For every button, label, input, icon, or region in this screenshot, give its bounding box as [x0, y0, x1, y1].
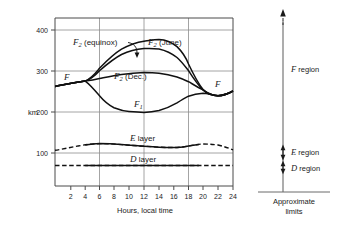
x-tick-6: 6 — [98, 193, 102, 200]
label-f-right: F — [214, 79, 221, 89]
side-label-f-region: F region — [290, 64, 319, 74]
x-tick-8: 8 — [112, 193, 116, 200]
y-tick-400: 400 — [36, 27, 48, 34]
x-tick-20: 20 — [199, 193, 207, 200]
label-f2-june: F2 (June) — [147, 37, 182, 48]
e-region-extent-arrow — [281, 145, 286, 161]
x-tick-12: 12 — [140, 193, 148, 200]
y-axis-unit-label: km — [28, 108, 38, 117]
figure-svg: 400 300 200 100 km 2 4 6 8 10 12 14 16 1… — [0, 0, 342, 232]
side-region-panel: F region E region D region Approximate l… — [258, 9, 330, 216]
region-up-arrow-icon — [280, 9, 286, 17]
label-f2-equinox: F2 (equinox) — [72, 37, 118, 48]
ionosphere-layer-height-figure: 400 300 200 100 km 2 4 6 8 10 12 14 16 1… — [0, 0, 342, 232]
x-axis-ticks — [71, 186, 233, 190]
x-axis-title: Hours, local time — [117, 206, 173, 215]
curve-e-layer-solid — [85, 144, 199, 148]
x-tick-24: 24 — [229, 193, 237, 200]
label-f1: F1 — [133, 99, 143, 110]
label-d-layer: D layer — [129, 154, 156, 164]
label-e-layer: E layer — [129, 133, 155, 143]
label-f2-dec: F2 (Dec.) — [113, 71, 147, 82]
x-tick-18: 18 — [185, 193, 193, 200]
y-axis-ticks — [51, 30, 55, 153]
label-f-left: F — [63, 72, 70, 82]
side-label-d-region: D region — [290, 163, 320, 173]
d-region-extent-arrow — [281, 161, 286, 174]
x-tick-10: 10 — [125, 193, 133, 200]
y-tick-200: 200 — [36, 109, 48, 116]
y-tick-100: 100 — [36, 150, 48, 157]
x-tick-4: 4 — [83, 193, 87, 200]
x-tick-14: 14 — [155, 193, 163, 200]
side-panel-footer-line1: Approximate — [273, 197, 315, 206]
side-label-e-region: E region — [290, 147, 319, 157]
x-tick-16: 16 — [170, 193, 178, 200]
side-panel-footer-line2: limits — [285, 207, 302, 216]
x-tick-2: 2 — [69, 193, 73, 200]
y-tick-300: 300 — [36, 68, 48, 75]
x-tick-22: 22 — [214, 193, 222, 200]
